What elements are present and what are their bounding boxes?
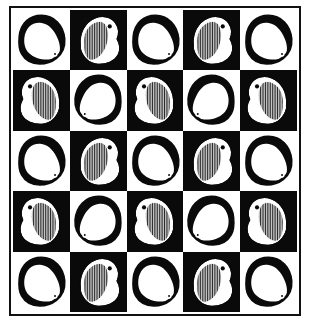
bird-icon — [70, 252, 127, 312]
bird-r2c5 — [240, 70, 297, 130]
bird-r3c3 — [127, 131, 184, 191]
bird-r4c1 — [13, 191, 70, 251]
bird-icon — [183, 191, 240, 251]
bird-r1c3 — [127, 10, 184, 70]
bird-r5c5 — [240, 252, 297, 312]
bird-r3c1 — [13, 131, 70, 191]
bird-icon — [13, 10, 70, 70]
bird-r1c2 — [70, 10, 127, 70]
bird-r1c1 — [13, 10, 70, 70]
bird-r2c1 — [13, 70, 70, 130]
bird-r1c5 — [240, 10, 297, 70]
artwork-frame — [9, 6, 301, 316]
bird-icon — [127, 252, 184, 312]
bird-checkerboard-grid — [13, 10, 297, 312]
bird-icon — [240, 191, 297, 251]
bird-r2c2 — [70, 70, 127, 130]
bird-r4c4 — [183, 191, 240, 251]
bird-icon — [13, 70, 70, 130]
bird-r5c3 — [127, 252, 184, 312]
bird-r4c2 — [70, 191, 127, 251]
bird-r3c5 — [240, 131, 297, 191]
bird-icon — [183, 10, 240, 70]
bird-icon — [240, 70, 297, 130]
bird-icon — [240, 10, 297, 70]
bird-r1c4 — [183, 10, 240, 70]
bird-icon — [13, 252, 70, 312]
bird-r2c4 — [183, 70, 240, 130]
bird-icon — [240, 252, 297, 312]
bird-icon — [127, 191, 184, 251]
bird-icon — [127, 131, 184, 191]
bird-r5c2 — [70, 252, 127, 312]
bird-icon — [70, 10, 127, 70]
bird-icon — [70, 191, 127, 251]
bird-r2c3 — [127, 70, 184, 130]
bird-icon — [183, 252, 240, 312]
bird-icon — [13, 131, 70, 191]
bird-r5c4 — [183, 252, 240, 312]
bird-icon — [183, 70, 240, 130]
bird-icon — [240, 131, 297, 191]
bird-icon — [13, 191, 70, 251]
bird-r5c1 — [13, 252, 70, 312]
bird-icon — [127, 10, 184, 70]
bird-r4c3 — [127, 191, 184, 251]
bird-icon — [127, 70, 184, 130]
bird-r3c4 — [183, 131, 240, 191]
bird-r4c5 — [240, 191, 297, 251]
bird-icon — [70, 131, 127, 191]
bird-r3c2 — [70, 131, 127, 191]
bird-icon — [183, 131, 240, 191]
bird-icon — [70, 70, 127, 130]
